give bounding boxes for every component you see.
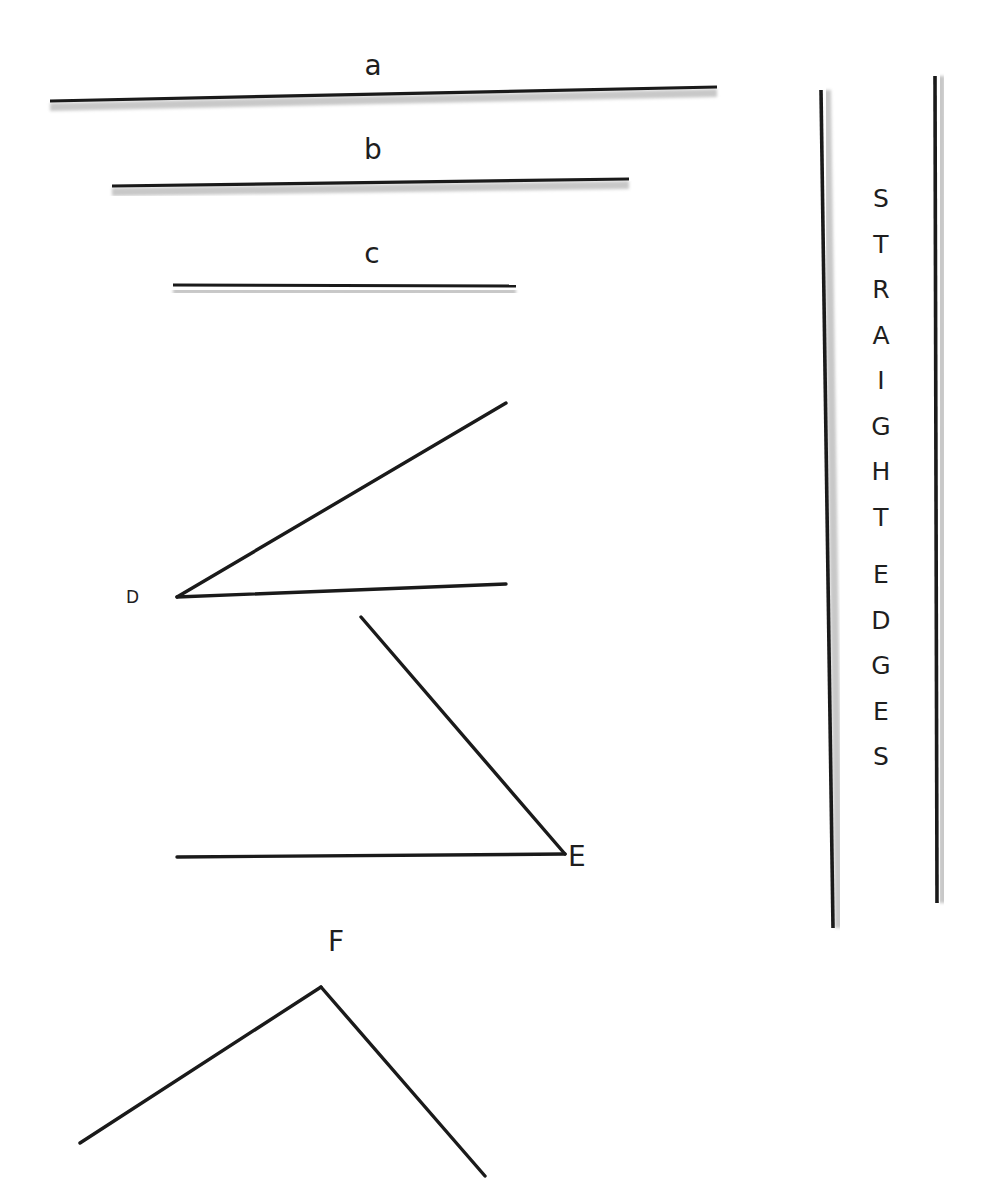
diagram-drawing <box>0 0 992 1196</box>
caption-letter: E <box>873 558 889 604</box>
segment-c-shadow <box>173 291 516 292</box>
angle-d-ray-2 <box>177 584 506 597</box>
segment-c <box>173 285 516 286</box>
angle-e-ray-2 <box>177 854 565 857</box>
angle-f-ray-1 <box>80 987 321 1143</box>
segment-label-a: a <box>364 52 381 80</box>
caption-letter: H <box>872 455 891 501</box>
segment-label-b: b <box>364 136 382 164</box>
caption-letter: G <box>871 410 890 456</box>
angle-label-e: E <box>568 843 586 871</box>
caption-letter: S <box>873 182 889 228</box>
straight-edge-right-shadow <box>941 76 943 903</box>
caption-letter: G <box>871 649 890 695</box>
caption-letter: S <box>873 740 889 786</box>
angle-d-ray-1 <box>177 403 506 597</box>
caption-letter: R <box>872 273 889 319</box>
caption-letter: E <box>873 695 889 741</box>
segments-layer <box>50 87 717 292</box>
caption-letter: T <box>873 501 888 547</box>
segment-label-c: c <box>364 240 379 268</box>
angle-label-f: F <box>328 928 344 956</box>
caption-letter: I <box>877 364 884 410</box>
diagram-canvas: a b c D E F S T R A I G H T E D G E S <box>0 0 992 1196</box>
straight-edges-caption: S T R A I G H T E D G E S <box>863 182 899 786</box>
straight-edge-right <box>935 76 937 903</box>
angles-layer <box>80 403 565 1176</box>
angle-label-d: D <box>126 589 139 606</box>
angle-e-ray-1 <box>361 617 565 854</box>
caption-letter: D <box>871 604 890 650</box>
caption-letter: T <box>873 228 888 274</box>
caption-letter: A <box>872 319 889 365</box>
angle-f-ray-2 <box>321 987 485 1176</box>
